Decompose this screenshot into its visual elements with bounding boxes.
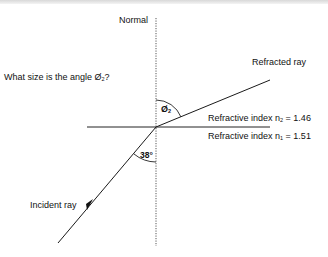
incident-ray: [58, 127, 156, 243]
arrow-icon: [86, 199, 93, 210]
angle2-symbol: Ø: [161, 104, 168, 114]
incident-ray-label: Incident ray: [30, 200, 77, 210]
question-main: What size is the angle Ø: [4, 72, 102, 82]
angle1-label: 38°: [140, 150, 153, 160]
medium1-prefix: Refractive index n: [208, 131, 280, 141]
medium1-value: = 1.51: [283, 131, 311, 141]
medium2-prefix: Refractive index n: [208, 113, 280, 123]
normal-label: Normal: [119, 15, 148, 25]
angle2-label: Ø2: [161, 104, 171, 114]
medium1-label: Refractive index n1 = 1.51: [208, 131, 311, 141]
medium2-value: = 1.46: [283, 113, 311, 123]
medium2-label: Refractive index n2 = 1.46: [208, 113, 311, 123]
refracted-ray-label: Refracted ray: [252, 57, 306, 67]
question-text: What size is the angle Ø2?: [4, 72, 110, 82]
angle2-subscript: 2: [168, 108, 171, 114]
question-end: ?: [105, 72, 110, 82]
refraction-diagram: [0, 0, 328, 257]
